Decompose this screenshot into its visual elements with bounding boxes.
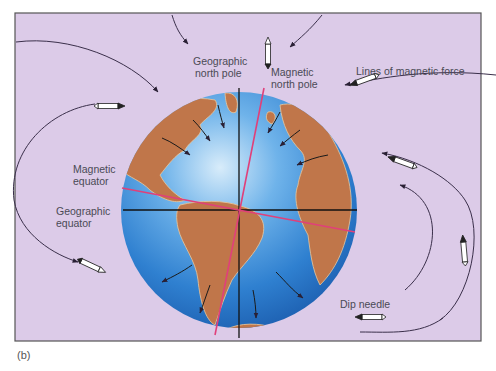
- geographic-equator-label-2: equator: [56, 217, 92, 229]
- dip-needle-label: Dip needle: [340, 298, 390, 310]
- geographic-equator-label: Geographic: [56, 205, 110, 217]
- earth-magnetic-field-diagram: Geographic north pole Magnetic north pol…: [0, 0, 496, 371]
- magnetic-north-pole-label-2: north pole: [271, 78, 318, 90]
- figure-caption: (b): [17, 349, 30, 361]
- geographic-north-pole-label-2: north pole: [195, 67, 242, 79]
- magnetic-north-pole-label: Magnetic: [271, 66, 314, 78]
- geographic-north-pole-label: Geographic: [193, 55, 247, 67]
- lines-of-magnetic-force-label: Lines of magnetic force: [356, 65, 465, 77]
- magnetic-equator-label: Magnetic: [73, 163, 116, 175]
- magnetic-equator-label-2: equator: [73, 175, 109, 187]
